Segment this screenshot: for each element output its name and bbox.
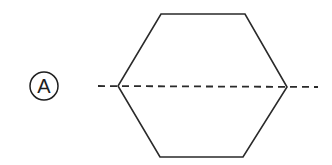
hexagon-shape <box>118 14 287 157</box>
option-label-marker: A <box>30 72 58 100</box>
diagram-canvas: A <box>0 0 332 165</box>
dashed-symmetry-line <box>98 86 318 87</box>
option-letter: A <box>37 75 51 97</box>
